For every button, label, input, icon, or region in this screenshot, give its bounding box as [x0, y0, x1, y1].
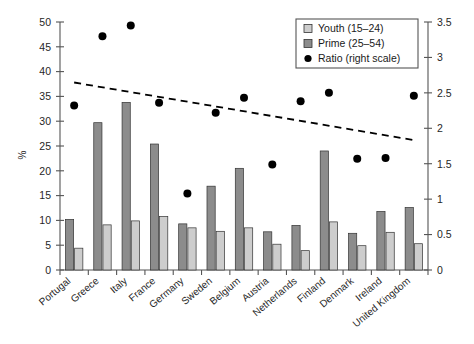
legend-label: Ratio (right scale) — [318, 52, 400, 64]
x-axis-label: Italy — [108, 275, 129, 295]
bar-prime — [75, 248, 83, 270]
bar-prime — [160, 216, 168, 270]
legend-marker-ratio — [304, 55, 311, 62]
ratio-dot — [183, 189, 191, 197]
legend-label: Youth (15–24) — [318, 22, 384, 34]
x-axis-label: Belgium — [208, 275, 243, 307]
y-tick-label-left: 25 — [39, 140, 51, 152]
ratio-dot — [353, 155, 361, 163]
bar-youth — [405, 208, 413, 270]
ratio-dot — [382, 154, 390, 162]
y-tick-label-left: 5 — [45, 239, 51, 251]
bar-youth — [320, 151, 328, 270]
bar-prime — [273, 244, 281, 270]
y-tick-label-left: 20 — [39, 165, 51, 177]
ratio-dot — [297, 97, 305, 105]
x-axis-label: Portugal — [37, 275, 73, 307]
x-axis-label: Greece — [69, 275, 102, 305]
bar-prime — [216, 231, 224, 270]
ratio-dot — [410, 92, 418, 100]
y-tick-label-right: 2 — [437, 122, 443, 134]
bar-youth — [179, 224, 187, 270]
y-tick-label-left: 45 — [39, 41, 51, 53]
ratio-dot — [98, 32, 106, 40]
legend-marker-prime — [304, 40, 312, 48]
bar-youth — [94, 123, 102, 270]
bar-youth — [264, 232, 272, 270]
ratio-dot — [240, 94, 248, 102]
bar-prime — [131, 221, 139, 270]
y-axis-title: % — [17, 150, 28, 159]
y-tick-label-left: 50 — [39, 16, 51, 28]
ratio-dot — [268, 160, 276, 168]
bar-youth — [122, 102, 130, 270]
bar-prime — [103, 225, 111, 270]
bar-youth — [150, 144, 158, 270]
legend-marker-youth — [304, 25, 312, 33]
y-tick-label-left: 40 — [39, 65, 51, 77]
y-tick-label-right: 3 — [437, 51, 443, 63]
ratio-dot — [325, 89, 333, 97]
bar-youth — [235, 168, 243, 270]
y-tick-label-left: 15 — [39, 189, 51, 201]
y-tick-label-right: 0.5 — [437, 228, 452, 240]
bar-prime — [386, 232, 394, 270]
ratio-dot — [155, 99, 163, 107]
ratio-dot — [212, 109, 220, 117]
bar-youth — [377, 211, 385, 270]
y-tick-label-right: 1.5 — [437, 158, 452, 170]
bar-prime — [358, 246, 366, 270]
bar-youth — [292, 225, 300, 270]
legend-label: Prime (25–54) — [318, 37, 385, 49]
y-tick-label-right: 2.5 — [437, 87, 452, 99]
y-tick-label-right: 1 — [437, 193, 443, 205]
bar-youth — [349, 233, 357, 270]
ratio-dot — [127, 22, 135, 30]
y-tick-label-left: 35 — [39, 90, 51, 102]
bar-prime — [188, 228, 196, 270]
y-tick-label-right: 3.5 — [437, 16, 452, 28]
y-tick-label-left: 10 — [39, 214, 51, 226]
y-tick-label-right: 0 — [437, 264, 443, 276]
bar-prime — [414, 244, 422, 270]
bar-prime — [329, 222, 337, 270]
bar-youth — [65, 219, 73, 270]
x-axis-label: Sweden — [179, 275, 214, 307]
bar-prime — [245, 228, 253, 270]
bar-chart: 0510152025303540455000.511.522.533.5%Por… — [0, 0, 474, 344]
y-tick-label-left: 30 — [39, 115, 51, 127]
chart-container: 0510152025303540455000.511.522.533.5%Por… — [0, 0, 474, 344]
y-tick-label-left: 0 — [45, 264, 51, 276]
bar-youth — [207, 186, 215, 270]
bar-prime — [301, 251, 309, 270]
ratio-dot — [70, 102, 78, 110]
